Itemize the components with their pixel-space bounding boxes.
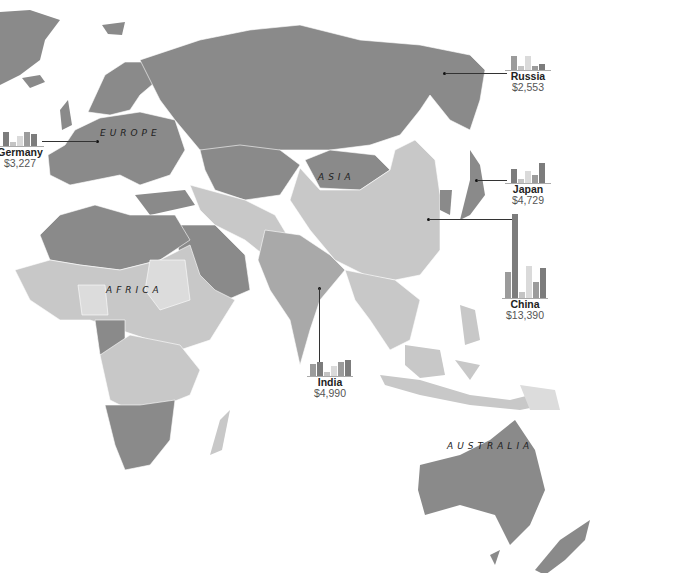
india-mini-bar-chart <box>307 360 353 377</box>
callout-china: China $13,390 <box>502 212 548 321</box>
region-label-europe: EUROPE <box>100 128 161 138</box>
country-value: $4,729 <box>505 195 551 206</box>
country-value: $4,990 <box>307 388 353 399</box>
india-leader <box>319 288 320 363</box>
germany-mini-bar-chart <box>0 132 44 147</box>
japan <box>460 150 485 220</box>
region-label-africa: AFRICA <box>106 285 163 295</box>
region-label-australia: AUSTRALIA <box>447 441 533 451</box>
callout-russia: Russia $2,553 <box>505 56 551 93</box>
africa-south <box>105 400 175 470</box>
russia <box>140 25 485 160</box>
japan-leader <box>477 180 507 181</box>
country-value: $3,227 <box>0 158 44 169</box>
callout-germany: Germany $3,227 <box>0 132 44 169</box>
russia-mini-bar-chart <box>505 56 551 71</box>
country-value: $13,390 <box>502 310 548 321</box>
japan-mini-bar-chart <box>505 163 551 184</box>
world-map <box>0 0 683 573</box>
russia-leader <box>445 73 507 74</box>
callout-india: India $4,990 <box>307 360 353 399</box>
china-mini-bar-chart <box>502 212 548 299</box>
australia <box>418 420 545 545</box>
germany-leader <box>42 141 97 142</box>
country-value: $2,553 <box>505 82 551 93</box>
callout-japan: Japan $4,729 <box>505 163 551 206</box>
region-label-asia: ASIA <box>318 172 355 182</box>
greenland <box>0 10 60 85</box>
